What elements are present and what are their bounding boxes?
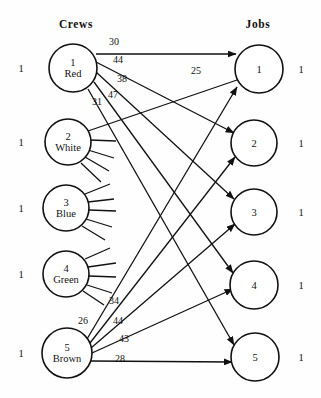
edge-stub-blue-5: [82, 226, 105, 240]
job-node-4[interactable]: [230, 261, 278, 309]
edge-stub-green-4: [87, 285, 112, 293]
cost-label-brown-job-1: 26: [78, 315, 88, 326]
cost-label-crossing-1: 25: [191, 65, 201, 76]
cost-label-brown-job-4: 43: [119, 333, 129, 344]
edge-stub-blue-4: [86, 219, 112, 227]
supply-label-green: 1: [18, 269, 23, 280]
demand-label-job-2: 1: [298, 138, 303, 149]
column-header-crews: Crews: [59, 18, 93, 30]
supply-label-blue: 1: [18, 203, 23, 214]
edge-stub-white-5: [81, 163, 101, 182]
edge-brown-to-job-3: [91, 224, 235, 348]
cost-label-red-job-4: 47: [108, 89, 118, 100]
crew-node-white[interactable]: [45, 119, 91, 165]
edge-stub-white-2: [90, 140, 116, 141]
edge-brown-to-job-5: [91, 361, 232, 362]
edge-stub-blue-1: [85, 184, 110, 194]
crew-node-green[interactable]: [43, 251, 89, 297]
edge-stub-blue-2: [88, 199, 114, 202]
column-header-jobs: Jobs: [246, 18, 271, 30]
job-node-1[interactable]: [235, 45, 283, 93]
edge-stub-green-3: [89, 276, 116, 277]
crew-node-blue[interactable]: [43, 185, 89, 231]
cost-label-red-job-2: 44: [113, 54, 123, 65]
assignment-network-diagram: Crews Jobs 30443847312634444328251Red12W…: [0, 0, 321, 398]
cost-label-red-job-1: 30: [109, 36, 119, 47]
network-graph-canvas: [0, 0, 321, 398]
cost-label-brown-job-5: 28: [115, 353, 125, 364]
supply-label-red: 1: [18, 63, 23, 74]
demand-label-job-4: 1: [298, 280, 303, 291]
crew-node-brown[interactable]: [42, 328, 92, 378]
cost-label-brown-job-2: 34: [109, 295, 119, 306]
edge-stub-blue-3: [89, 210, 116, 211]
edge-stub-green-5: [83, 291, 104, 305]
demand-label-job-1: 1: [298, 64, 303, 75]
edge-stub-white-3: [88, 150, 114, 158]
job-node-5[interactable]: [231, 333, 279, 381]
supply-label-brown: 1: [18, 348, 23, 359]
crew-node-red[interactable]: [49, 44, 97, 92]
cost-label-red-job-5: 31: [92, 96, 102, 107]
job-node-3[interactable]: [231, 189, 277, 235]
demand-label-job-5: 1: [298, 352, 303, 363]
job-node-2[interactable]: [231, 120, 277, 166]
demand-label-job-3: 1: [298, 207, 303, 218]
edge-red-to-job-5: [88, 89, 234, 345]
edge-stub-white-4: [85, 157, 109, 171]
supply-label-white: 1: [18, 137, 23, 148]
cost-label-red-job-3: 38: [117, 73, 127, 84]
edge-stub-green-1: [85, 248, 110, 259]
edge-stub-green-2: [88, 263, 116, 267]
edges-group: [81, 54, 237, 362]
edge-brown-to-job-2: [90, 157, 235, 343]
cost-label-brown-job-3: 44: [113, 315, 123, 326]
